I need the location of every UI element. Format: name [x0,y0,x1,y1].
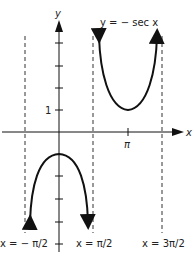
secant-graph: y x y = − sec x 1 π x = − π/2 x = π/2 x … [0,0,194,257]
asymptote-label-neg-pi-half: x = − π/2 [0,238,48,249]
upper-branch-curve [99,36,157,110]
y-axis-label: y [54,8,62,19]
y-axis-arrow-icon [55,20,63,32]
function-label: y = − sec x [100,17,158,28]
x-tick-label-pi: π [124,139,131,150]
x-axis-label: x [185,127,192,138]
y-tick-label-1: 1 [45,105,51,116]
asymptote-label-pi-half: x = π/2 [76,238,112,249]
asymptote-label-3pi-half: x = 3π/2 [142,238,185,249]
x-axis-arrow-icon [172,128,184,136]
